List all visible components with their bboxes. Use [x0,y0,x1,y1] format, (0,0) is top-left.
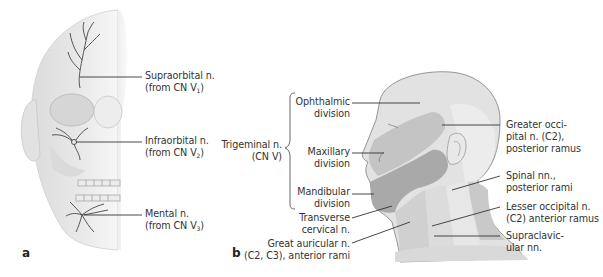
label-supraorbital-nerve: Supraorbital n. (from CN V1) [145,70,215,94]
label-mental-nerve: Mental n. (from CN V3) [145,208,204,232]
label-maxillary-division: Maxillary division [270,146,350,170]
label-ophthalmic-division: Ophthalmic division [270,96,350,120]
label-spinal-nerves-posterior-rami: Spinal nn., posterior rami [506,170,573,194]
panel-letter-a: a [22,246,30,260]
label-greater-occipital-nerve: Greater occi- pital n. (C2), posterior r… [506,119,581,155]
label-mandibular-division: Mandibular division [270,186,350,210]
label-lesser-occipital-nerve: Lesser occipital n. (C2) anterior ramus [506,201,599,225]
face-illustration [21,10,142,250]
figure-trigeminal-sensory-innervation: Supraorbital n. (from CN V1) Infraorbita… [0,0,603,277]
label-supraclavicular-nerves: Supraclavic- ular nn. [506,230,564,254]
panel-letter-b: b [232,246,241,260]
label-transverse-cervical-nerve: Transverse cervical n. [260,212,350,236]
label-infraorbital-nerve: Infraorbital n. (from CN V2) [145,135,209,159]
